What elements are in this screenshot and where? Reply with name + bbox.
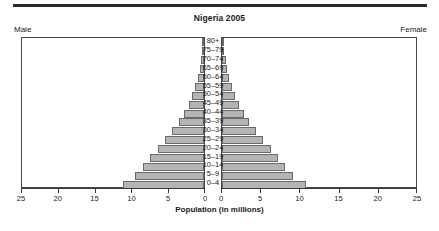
bar-female-80+ (222, 38, 416, 46)
bar-male-80+ (22, 38, 204, 46)
axis-tick (416, 189, 417, 193)
axis-tick (21, 189, 22, 193)
bar-male-55-59 (22, 83, 204, 91)
bar-male-15-19 (22, 154, 204, 162)
axis-tick (168, 189, 169, 193)
bar-female-10-14 (222, 163, 416, 171)
bar-female-20-24 (222, 145, 416, 153)
female-series-label: Female (400, 25, 427, 34)
bar-male-30-34 (22, 127, 204, 135)
bar-male-10-14 (22, 163, 204, 171)
bar-male-25-29 (22, 136, 204, 144)
axis-tick (339, 189, 340, 193)
female-plot-panel (221, 37, 417, 188)
axis-tick-label: 10 (287, 194, 311, 203)
axis-tick (221, 189, 222, 193)
axis-tick-label: 5 (156, 194, 180, 203)
axis-tick (131, 189, 132, 193)
bar-male-35-39 (22, 118, 204, 126)
axis-tick-label: 0 (209, 194, 233, 203)
age-group-label: 0–4 (190, 179, 236, 188)
age-group-axis: 80+75–7970–7465–6960–6455–5950–5445–4940… (205, 37, 221, 188)
axis-tick (299, 189, 300, 193)
bar-female-45-49 (222, 101, 416, 109)
page-title: Nigeria 2005 (0, 13, 439, 23)
bar-male-65-69 (22, 65, 204, 73)
axis-tick-label: 10 (119, 194, 143, 203)
female-x-axis: 0510152025 (221, 188, 417, 193)
bar-female-75-79 (222, 47, 416, 55)
bar-female-15-19 (222, 154, 416, 162)
axis-tick-label: 15 (83, 194, 107, 203)
bar-male-60-64 (22, 74, 204, 82)
bar-male-50-54 (22, 92, 204, 100)
bar-male-45-49 (22, 101, 204, 109)
female-bar-group (222, 38, 416, 187)
bar-female-5-9 (222, 172, 416, 180)
male-plot-panel (21, 37, 205, 188)
bar-female-60-64 (222, 74, 416, 82)
axis-tick-label: 25 (405, 194, 429, 203)
male-x-axis: 2520151050 (21, 188, 205, 193)
axis-tick-label: 25 (9, 194, 33, 203)
axis-tick-label: 5 (248, 194, 272, 203)
top-divider-rule (13, 4, 427, 7)
bar-female-70-74 (222, 56, 416, 64)
bar-female-65-69 (222, 65, 416, 73)
bar-male-75-79 (22, 47, 204, 55)
male-bar-group (22, 38, 204, 187)
bar-female-40-44 (222, 110, 416, 118)
male-series-label: Male (14, 25, 31, 34)
bar-female-35-39 (222, 118, 416, 126)
age-group-label: 60–64 (190, 73, 236, 82)
bar-female-30-34 (222, 127, 416, 135)
axis-tick-label: 15 (327, 194, 351, 203)
axis-tick (378, 189, 379, 193)
bar-male-5-9 (22, 172, 204, 180)
bar-male-40-44 (22, 110, 204, 118)
bar-female-55-59 (222, 83, 416, 91)
x-axis-title: Population (in millions) (0, 205, 439, 214)
axis-tick (95, 189, 96, 193)
axis-tick-label: 20 (366, 194, 390, 203)
axis-tick (58, 189, 59, 193)
axis-tick-label: 20 (46, 194, 70, 203)
bar-female-25-29 (222, 136, 416, 144)
bar-female-50-54 (222, 92, 416, 100)
bar-male-20-24 (22, 145, 204, 153)
axis-tick (260, 189, 261, 193)
axis-tick (204, 189, 205, 193)
bar-male-70-74 (22, 56, 204, 64)
